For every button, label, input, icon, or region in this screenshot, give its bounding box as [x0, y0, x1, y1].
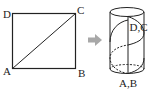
- cylinder: [110, 8, 144, 74]
- label-a: A: [3, 65, 11, 77]
- label-b: B: [78, 67, 85, 79]
- cylinder-top-ellipse: [110, 8, 144, 17]
- square: [13, 14, 76, 69]
- helix-side: [110, 20, 128, 42]
- label-d: D: [3, 8, 11, 20]
- diagonal-ac: [13, 14, 76, 69]
- square-to-cylinder-diagram: D C A B D,C A,B: [0, 0, 154, 90]
- cylinder-bottom-front: [110, 69, 144, 73]
- helix-back: [110, 45, 128, 74]
- label-c: C: [77, 4, 84, 16]
- right-arrow-icon: [88, 34, 102, 46]
- label-dc: D,C: [130, 21, 148, 33]
- label-ab: A,B: [119, 77, 137, 89]
